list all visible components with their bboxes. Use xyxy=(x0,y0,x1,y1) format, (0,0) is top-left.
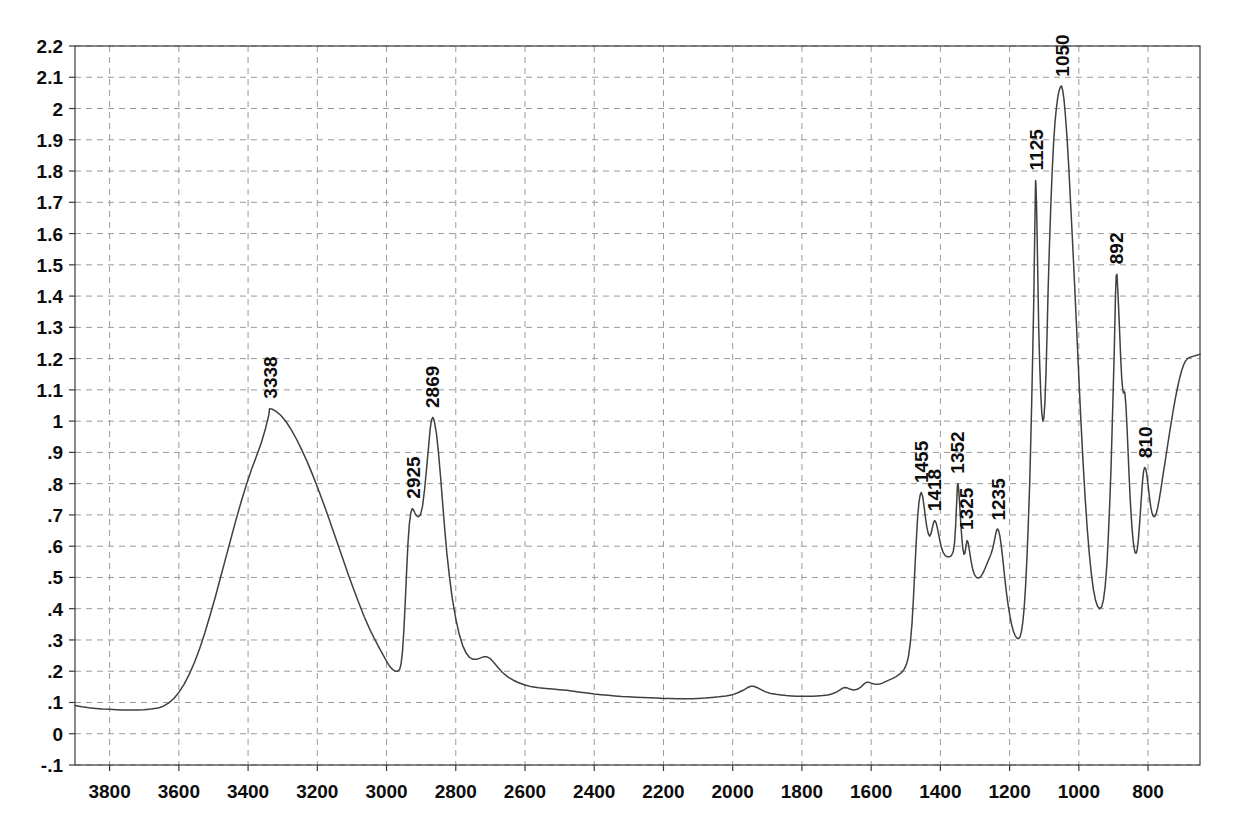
y-tick-label: .9 xyxy=(47,442,63,463)
x-tick-label: 800 xyxy=(1132,781,1164,802)
x-tick-label: 1200 xyxy=(988,781,1030,802)
y-tick-label: .8 xyxy=(47,474,63,495)
spectrum-trace-layer xyxy=(75,86,1200,710)
spectrum-trace xyxy=(75,86,1200,710)
x-tick-label: 3000 xyxy=(365,781,407,802)
peak-label: 810 xyxy=(1135,426,1156,458)
peak-label-group: 810 xyxy=(1135,426,1156,458)
y-tick-label: 2 xyxy=(52,99,63,120)
peak-label-group: 1050 xyxy=(1052,34,1073,76)
y-tick-label: .3 xyxy=(47,630,63,651)
x-tick-label: 3600 xyxy=(158,781,200,802)
y-tick-label: .1 xyxy=(47,692,63,713)
peak-label-group: 2925 xyxy=(403,456,424,499)
peak-label-group: 1125 xyxy=(1026,129,1047,171)
spectrum-plot: 2.22.121.91.81.71.61.51.41.31.21.11.9.8.… xyxy=(0,0,1236,839)
x-tick-label: 2800 xyxy=(435,781,477,802)
peak-label-group: 1418 xyxy=(924,469,945,511)
y-tick-label: .6 xyxy=(47,536,63,557)
peak-label: 892 xyxy=(1106,232,1127,264)
y-tick-label: .5 xyxy=(47,567,63,588)
ir-spectrum-chart: 2.22.121.91.81.71.61.51.41.31.21.11.9.8.… xyxy=(0,0,1236,839)
y-tick-label: 1.4 xyxy=(37,286,64,307)
y-tick-label: 1.3 xyxy=(37,317,63,338)
peak-label: 1352 xyxy=(947,431,968,473)
y-tick-label: .7 xyxy=(47,505,63,526)
peak-label: 1125 xyxy=(1026,129,1047,171)
y-tick-label: .2 xyxy=(47,661,63,682)
peak-label: 1235 xyxy=(988,478,1009,521)
peak-label: 1050 xyxy=(1052,34,1073,76)
x-tick-label: 1600 xyxy=(850,781,892,802)
y-tick-label: 1.1 xyxy=(37,380,64,401)
y-tick-label: 0 xyxy=(52,724,63,745)
peak-label: 1325 xyxy=(956,487,977,530)
peak-label: 2925 xyxy=(403,456,424,499)
x-tick-label: 2400 xyxy=(573,781,615,802)
x-tick-label: 2000 xyxy=(712,781,754,802)
y-tick-label: 1.7 xyxy=(37,192,63,213)
peak-label-group: 3338 xyxy=(260,356,281,398)
peak-label: 3338 xyxy=(260,356,281,398)
x-axis-tick-labels: 3800360034003200300028002600240022002000… xyxy=(88,781,1163,802)
y-tick-label: 1 xyxy=(52,411,63,432)
peak-label-group: 1235 xyxy=(988,478,1009,521)
x-tick-label: 3800 xyxy=(88,781,130,802)
x-tick-label: 1800 xyxy=(781,781,823,802)
y-tick-label: 1.8 xyxy=(37,161,63,182)
peak-label-group: 1325 xyxy=(956,487,977,530)
peak-label: 2869 xyxy=(422,366,443,408)
x-tick-label: 3200 xyxy=(296,781,338,802)
tick-marks xyxy=(69,46,1148,771)
y-tick-label: 1.9 xyxy=(37,130,63,151)
peak-label-group: 2869 xyxy=(422,366,443,408)
y-tick-label: 1.6 xyxy=(37,224,63,245)
peak-label: 1418 xyxy=(924,469,945,511)
y-axis-tick-labels: 2.22.121.91.81.71.61.51.41.31.21.11.9.8.… xyxy=(37,36,64,776)
y-tick-label: 2.1 xyxy=(37,67,64,88)
x-tick-label: 2600 xyxy=(504,781,546,802)
peak-label-group: 892 xyxy=(1106,232,1127,264)
x-tick-label: 3400 xyxy=(227,781,269,802)
peak-label-group: 1352 xyxy=(947,431,968,473)
x-tick-label: 1400 xyxy=(919,781,961,802)
x-tick-label: 2200 xyxy=(642,781,684,802)
y-tick-label: 2.2 xyxy=(37,36,63,57)
x-tick-label: 1000 xyxy=(1058,781,1100,802)
y-tick-label: 1.2 xyxy=(37,349,63,370)
y-tick-label: .4 xyxy=(47,599,63,620)
y-tick-label: 1.5 xyxy=(37,255,64,276)
y-tick-label: -.1 xyxy=(41,755,64,776)
